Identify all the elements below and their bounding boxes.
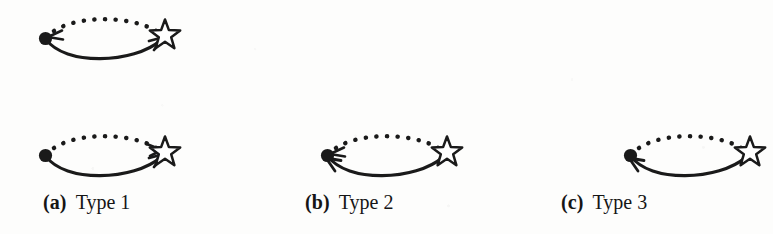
caption-c: (c)Type 3 [561, 192, 647, 212]
figure-container: (a)Type 1 (b)Type 2 [0, 0, 773, 234]
bigon-diagram-a [18, 125, 193, 185]
node-dot-left [624, 149, 637, 162]
dotted-upper-arc [46, 136, 158, 155]
caption-a-title: Type 1 [76, 191, 131, 213]
solid-lower-arc [631, 156, 746, 176]
bigon-diagram-b [300, 125, 475, 185]
node-dot-left [39, 32, 52, 45]
caption-a: (a)Type 1 [43, 192, 130, 212]
dotted-upper-arc [46, 19, 158, 38]
caption-c-tag: (c) [561, 191, 584, 213]
bigon-diagram-c [603, 125, 773, 185]
caption-b-tag: (b) [305, 191, 330, 213]
bigon-diagram-top [18, 8, 193, 68]
caption-b-title: Type 2 [339, 191, 394, 213]
solid-lower-arc [328, 156, 443, 176]
panel-c [603, 125, 773, 185]
node-dot-left [321, 149, 334, 162]
panel-a [18, 125, 193, 185]
dotted-upper-arc [328, 136, 440, 155]
panel-b [300, 125, 475, 185]
caption-c-title: Type 3 [593, 191, 648, 213]
solid-lower-arc [46, 39, 161, 59]
caption-a-tag: (a) [43, 191, 67, 213]
dotted-upper-arc [631, 136, 743, 155]
solid-lower-arc [46, 156, 161, 176]
caption-b: (b)Type 2 [305, 192, 393, 212]
panel-top [18, 8, 193, 68]
node-dot-left [39, 149, 52, 162]
